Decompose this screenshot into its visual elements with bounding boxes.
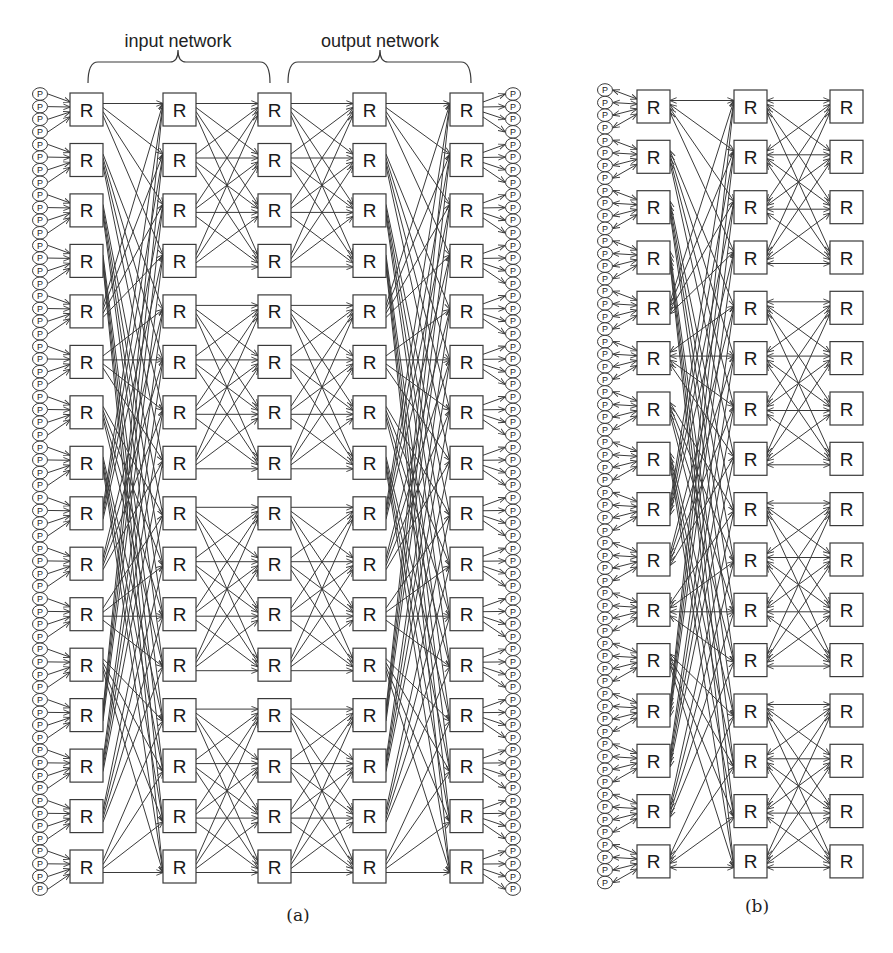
svg-text:P: P (510, 531, 516, 541)
processor-node: P (598, 222, 613, 235)
link (670, 252, 734, 516)
svg-text:P: P (602, 739, 608, 749)
svg-text:P: P (602, 538, 608, 548)
svg-text:P: P (602, 261, 608, 271)
processor-node: P (33, 353, 48, 366)
svg-text:P: P (37, 304, 43, 314)
link (386, 104, 450, 306)
svg-text:P: P (602, 639, 608, 649)
svg-text:P: P (602, 853, 608, 863)
processor-node: P (598, 436, 613, 449)
svg-text:P: P (510, 821, 516, 831)
svg-text:P: P (510, 102, 516, 112)
svg-text:R: R (80, 150, 94, 171)
processor-node: P (506, 668, 521, 681)
svg-text:P: P (510, 215, 516, 225)
router: R (70, 749, 103, 782)
svg-text:R: R (744, 550, 758, 571)
svg-text:P: P (510, 152, 516, 162)
processor-node: P (506, 176, 521, 189)
router: R (353, 648, 386, 681)
svg-text:P: P (602, 752, 608, 762)
svg-text:P: P (602, 475, 608, 485)
processor-node: P (33, 593, 48, 606)
svg-text:R: R (173, 150, 187, 171)
svg-text:P: P (602, 123, 608, 133)
svg-text:P: P (510, 733, 516, 743)
svg-text:P: P (37, 455, 43, 465)
svg-text:P: P (510, 644, 516, 654)
svg-text:R: R (840, 701, 854, 722)
processor-node: P (33, 391, 48, 404)
svg-text:R: R (173, 655, 187, 676)
router: R (734, 342, 767, 375)
processor-node: P (598, 537, 613, 550)
link (386, 721, 450, 860)
svg-text:P: P (37, 291, 43, 301)
svg-text:R: R (80, 503, 94, 524)
router: R (450, 699, 483, 732)
router: R (353, 800, 386, 833)
processor-node: P (33, 492, 48, 505)
router: R (830, 493, 863, 526)
svg-text:P: P (510, 228, 516, 238)
brace-label: output network (321, 31, 440, 51)
svg-text:P: P (37, 114, 43, 124)
processor-node: P (598, 625, 613, 638)
svg-text:P: P (37, 241, 43, 251)
svg-text:P: P (37, 632, 43, 642)
processor-node: P (506, 731, 521, 744)
svg-text:R: R (80, 655, 94, 676)
router: R (70, 144, 103, 177)
panel-a-braces: input networkoutput network (88, 31, 471, 83)
svg-text:P: P (510, 443, 516, 453)
brace (88, 50, 270, 83)
processor-node: P (598, 285, 613, 298)
svg-text:R: R (173, 301, 187, 322)
router: R (353, 244, 386, 277)
processor-node: P (33, 555, 48, 568)
router: R (258, 446, 291, 479)
svg-text:P: P (37, 720, 43, 730)
processor-node: P (506, 807, 521, 820)
processor-node: P (598, 864, 613, 877)
router: R (163, 850, 196, 883)
processor-node: P (506, 769, 521, 782)
processor-node: P (33, 858, 48, 871)
router: R (734, 744, 767, 777)
router: R (70, 547, 103, 580)
processor-node: P (598, 84, 613, 97)
svg-text:P: P (510, 607, 516, 617)
processor-node: P (598, 335, 613, 348)
processor-node: P (33, 290, 48, 303)
router: R (734, 543, 767, 576)
svg-text:P: P (602, 211, 608, 221)
processor-node: P (506, 656, 521, 669)
svg-text:R: R (80, 100, 94, 121)
svg-text:P: P (602, 148, 608, 158)
svg-text:R: R (173, 251, 187, 272)
svg-text:P: P (602, 513, 608, 523)
router: R (258, 244, 291, 277)
processor-node: P (506, 580, 521, 593)
svg-text:P: P (510, 392, 516, 402)
svg-text:R: R (363, 655, 377, 676)
router: R (637, 593, 670, 626)
processor-node: P (33, 757, 48, 770)
svg-text:P: P (510, 304, 516, 314)
svg-text:R: R (173, 857, 187, 878)
link (103, 255, 163, 519)
router: R (70, 345, 103, 378)
svg-text:R: R (840, 248, 854, 269)
svg-text:R: R (460, 554, 474, 575)
svg-text:P: P (510, 379, 516, 389)
router: R (450, 295, 483, 328)
processor-node: P (598, 260, 613, 273)
svg-text:P: P (37, 203, 43, 213)
processor-node: P (506, 340, 521, 353)
router: R (450, 93, 483, 126)
processor-node: P (506, 428, 521, 441)
svg-text:R: R (268, 857, 282, 878)
svg-text:R: R (744, 801, 758, 822)
svg-text:P: P (37, 619, 43, 629)
